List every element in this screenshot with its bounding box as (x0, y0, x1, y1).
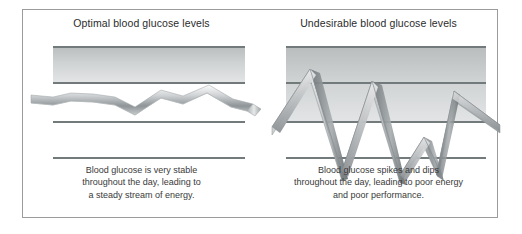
gridline-lower (53, 157, 245, 159)
panel-optimal: Optimal blood glucose levels (23, 10, 260, 217)
caption-undesirable: Blood glucose spikes and dips throughout… (268, 164, 489, 202)
gridline-mid-upper (286, 82, 486, 84)
panel-title-undesirable: Undesirable blood glucose levels (260, 17, 497, 29)
gridline-upper (53, 46, 245, 48)
panel-title-optimal: Optimal blood glucose levels (23, 17, 260, 29)
chart-undesirable (286, 43, 486, 158)
gridline-mid-lower (53, 121, 245, 123)
chart-optimal (53, 43, 245, 158)
panel-undesirable: Undesirable blood glucose levels (260, 10, 497, 217)
gridline-upper (286, 46, 486, 48)
gridline-lower (286, 157, 486, 159)
figure-frame: Optimal blood glucose levels (22, 9, 498, 218)
gridline-mid-upper (53, 82, 245, 84)
caption-optimal: Blood glucose is very stable throughout … (31, 164, 252, 202)
target-range-band (53, 46, 245, 82)
gridline-mid-lower (286, 121, 486, 123)
